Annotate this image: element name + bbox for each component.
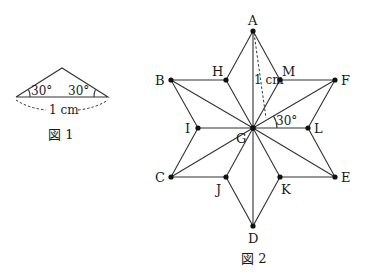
fig1-angle-left-label: 30° (31, 84, 52, 98)
point-C (168, 174, 173, 179)
point-K (277, 174, 282, 179)
label-K: K (281, 182, 291, 197)
label-H: H (212, 64, 223, 79)
point-H (223, 77, 228, 82)
point-J (223, 174, 228, 179)
label-C: C (155, 170, 165, 185)
label-A: A (247, 13, 258, 28)
segment-AH (226, 31, 253, 80)
segment-GH (226, 80, 253, 128)
label-I: I (185, 121, 190, 136)
point-F (332, 77, 337, 82)
label-F: F (341, 73, 350, 88)
point-E (332, 174, 337, 179)
fig1-dim-right (78, 100, 108, 110)
figure-1: 30° 30° 1 cm 図 1 (16, 68, 108, 142)
fig1-angle-arc-right (94, 90, 96, 98)
point-L (305, 125, 310, 130)
fig1-angle-arc-left (29, 90, 31, 98)
segment-GK (253, 128, 280, 177)
fig1-dim-left (16, 100, 46, 110)
label-G: G (236, 131, 246, 146)
label-M: M (282, 64, 295, 79)
label-B: B (155, 73, 165, 88)
point-G (250, 125, 256, 131)
label-J: J (214, 182, 221, 197)
fig1-caption: 図 1 (48, 127, 73, 142)
label-D: D (248, 231, 258, 246)
figure-2: A B H M F I G L C J K E D 1 cm 30° 図 2 (155, 13, 351, 266)
fig2-caption: 図 2 (241, 251, 266, 266)
point-B (168, 77, 173, 82)
point-D (250, 223, 255, 228)
segment-GB (171, 80, 253, 128)
angle-label-30: 30° (276, 114, 297, 128)
label-L: L (314, 121, 323, 136)
diagram-canvas: 30° 30° 1 cm 図 1 (0, 0, 367, 275)
label-E: E (341, 170, 351, 185)
point-A (250, 28, 255, 33)
length-label-1cm: 1 cm (254, 73, 284, 87)
fig1-length-label: 1 cm (49, 103, 79, 117)
segment-GE (253, 128, 335, 177)
fig1-angle-right-label: 30° (68, 84, 89, 98)
point-I (195, 125, 200, 130)
